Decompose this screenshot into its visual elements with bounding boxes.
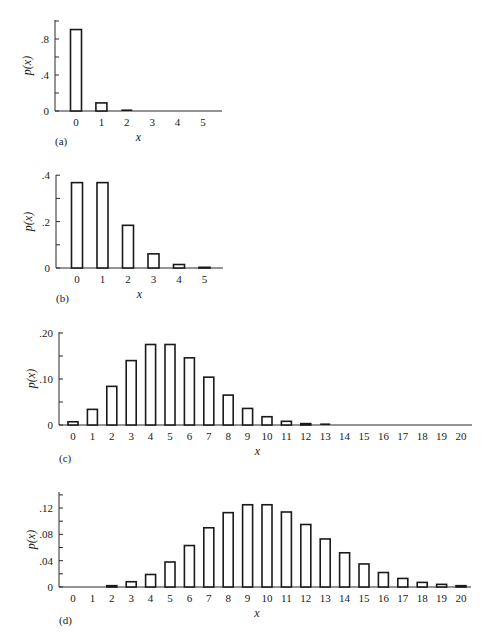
bar-x-13 xyxy=(320,539,330,587)
panel-b: 0.2.4012345xp(x)(b) xyxy=(21,169,223,305)
bar-x-2 xyxy=(123,225,134,268)
bar-x-7 xyxy=(204,377,214,425)
x-tick-label: 7 xyxy=(206,592,212,604)
x-tick-label: 6 xyxy=(187,592,193,604)
y-tick-label: .2 xyxy=(42,216,50,228)
x-tick-label: 5 xyxy=(202,273,208,285)
x-tick-label: 3 xyxy=(151,273,157,285)
x-tick-label: 3 xyxy=(128,430,134,442)
x-tick-label: 5 xyxy=(167,592,173,604)
x-tick-label: 17 xyxy=(397,592,409,604)
y-tick-label: .10 xyxy=(39,373,53,385)
x-tick-label: 0 xyxy=(70,430,76,442)
x-tick-label: 16 xyxy=(378,592,390,604)
bar-x-1 xyxy=(96,103,107,111)
x-tick-label: 6 xyxy=(187,430,193,442)
x-tick-label: 11 xyxy=(281,430,292,442)
y-tick-label: .12 xyxy=(39,502,53,514)
y-axis-title: p(x) xyxy=(20,56,34,76)
x-tick-label: 12 xyxy=(300,430,311,442)
x-tick-label: 2 xyxy=(124,116,130,128)
y-tick-label: 0 xyxy=(48,581,54,593)
x-tick-label: 15 xyxy=(359,430,371,442)
x-tick-label: 19 xyxy=(436,430,448,442)
x-tick-label: 10 xyxy=(262,592,274,604)
x-tick-label: 0 xyxy=(74,273,80,285)
panel-a: 0.4.8012345xp(x)(a) xyxy=(20,20,222,148)
y-tick-label: .4 xyxy=(42,169,51,181)
x-tick-label: 16 xyxy=(378,430,390,442)
bar-x-12 xyxy=(301,524,311,587)
y-tick-label: .8 xyxy=(41,33,50,45)
bar-x-6 xyxy=(184,546,194,587)
x-tick-label: 18 xyxy=(417,430,429,442)
x-tick-label: 4 xyxy=(176,273,182,285)
panel-label: (b) xyxy=(56,292,69,305)
bar-x-0 xyxy=(71,30,82,111)
poisson-distribution-figure: 0.4.8012345xp(x)(a)0.2.4012345xp(x)(b)0.… xyxy=(0,0,487,635)
bar-x-12 xyxy=(301,424,311,425)
bar-x-9 xyxy=(243,505,253,587)
x-tick-label: 4 xyxy=(175,116,181,128)
x-tick-label: 1 xyxy=(99,116,105,128)
y-axis-title: p(x) xyxy=(21,212,35,232)
y-tick-label: .20 xyxy=(39,327,53,339)
x-tick-label: 3 xyxy=(128,592,134,604)
x-tick-label: 8 xyxy=(225,430,231,442)
x-tick-label: 5 xyxy=(167,430,173,442)
x-tick-label: 14 xyxy=(339,592,351,604)
panel-c: 0.10.2001234567891011121314151617181920x… xyxy=(24,327,472,465)
x-tick-label: 4 xyxy=(148,592,154,604)
x-tick-label: 8 xyxy=(225,592,231,604)
bar-x-17 xyxy=(398,578,408,587)
x-tick-label: 3 xyxy=(149,116,155,128)
bar-x-4 xyxy=(146,574,156,587)
panel-label: (c) xyxy=(59,452,72,465)
bar-x-0 xyxy=(72,183,83,268)
bar-x-20 xyxy=(456,586,466,587)
bar-x-19 xyxy=(437,584,447,587)
x-tick-label: 13 xyxy=(320,592,332,604)
x-tick-label: 14 xyxy=(339,430,351,442)
y-axis-title: p(x) xyxy=(24,369,38,389)
bar-x-11 xyxy=(281,421,291,425)
x-axis-title: x xyxy=(253,606,260,620)
x-tick-label: 12 xyxy=(300,592,311,604)
panel-label: (a) xyxy=(55,135,68,148)
bar-x-2 xyxy=(107,586,117,587)
x-tick-label: 9 xyxy=(245,430,251,442)
x-tick-label: 1 xyxy=(100,273,106,285)
panel-d: 0.04.08.12012345678910111213141516171819… xyxy=(24,492,471,627)
x-tick-label: 5 xyxy=(200,116,206,128)
bar-x-4 xyxy=(146,345,156,426)
x-tick-label: 17 xyxy=(397,430,409,442)
x-tick-label: 2 xyxy=(109,430,115,442)
y-tick-label: 0 xyxy=(45,262,51,274)
x-tick-label: 0 xyxy=(73,116,79,128)
bar-x-2 xyxy=(107,386,117,425)
x-tick-label: 2 xyxy=(125,273,131,285)
bar-x-8 xyxy=(223,395,233,425)
bar-x-4 xyxy=(174,265,185,268)
bar-x-1 xyxy=(97,183,108,268)
bar-x-18 xyxy=(417,582,427,587)
bar-x-3 xyxy=(126,582,136,587)
bar-x-10 xyxy=(262,505,272,587)
bar-x-3 xyxy=(148,254,159,268)
bar-x-1 xyxy=(87,409,97,425)
y-tick-label: .04 xyxy=(39,555,53,567)
x-tick-label: 13 xyxy=(320,430,332,442)
x-tick-label: 2 xyxy=(109,592,115,604)
x-axis-title: x xyxy=(254,444,261,458)
bar-x-0 xyxy=(68,422,78,425)
bar-x-16 xyxy=(378,573,388,587)
x-tick-label: 20 xyxy=(456,592,468,604)
x-tick-label: 10 xyxy=(262,430,274,442)
x-axis-title: x xyxy=(135,130,142,144)
bar-x-5 xyxy=(199,267,210,268)
y-tick-label: 0 xyxy=(48,419,54,431)
bar-x-3 xyxy=(126,361,136,425)
x-tick-label: 15 xyxy=(359,592,371,604)
x-tick-label: 7 xyxy=(206,430,212,442)
x-axis-title: x xyxy=(136,287,143,301)
